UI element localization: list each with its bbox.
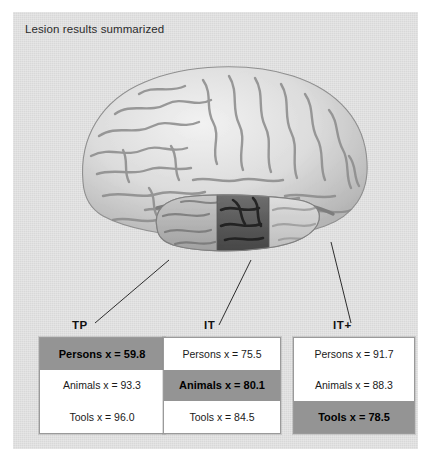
result-row: Tools x = 78.5 bbox=[294, 401, 414, 433]
result-row: Persons x = 75.5 bbox=[164, 338, 280, 370]
result-box-itp: Persons x = 91.7 Animals x = 88.3 Tools … bbox=[293, 337, 415, 434]
result-row: Persons x = 91.7 bbox=[294, 338, 414, 370]
result-row: Persons x = 59.8 bbox=[40, 338, 164, 370]
brain-illustration bbox=[53, 50, 383, 270]
result-row: Tools x = 84.5 bbox=[164, 401, 280, 433]
column-label-it: IT bbox=[204, 319, 215, 331]
result-row: Animals x = 93.3 bbox=[40, 370, 164, 402]
result-box-it: Persons x = 75.5 Animals x = 80.1 Tools … bbox=[163, 337, 281, 434]
column-label-itp: IT+ bbox=[333, 319, 352, 331]
temporal-lobe bbox=[149, 190, 327, 256]
column-label-tp: TP bbox=[72, 319, 88, 331]
result-row: Tools x = 96.0 bbox=[40, 401, 164, 433]
result-box-tp: Persons x = 59.8 Animals x = 93.3 Tools … bbox=[39, 337, 165, 434]
figure-panel: Lesion results summarized bbox=[13, 12, 418, 449]
result-row: Animals x = 88.3 bbox=[294, 370, 414, 402]
result-row: Animals x = 80.1 bbox=[164, 370, 280, 402]
figure-title: Lesion results summarized bbox=[25, 23, 164, 35]
